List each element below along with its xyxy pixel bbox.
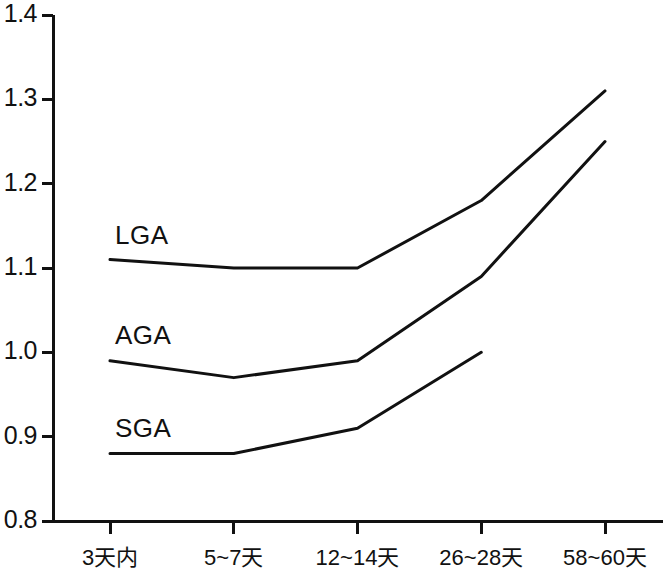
y-axis-tick-label: 1.2 (4, 168, 37, 197)
series-label-aga: AGA (115, 320, 171, 351)
series-line-aga (110, 142, 605, 378)
series-label-sga: SGA (115, 413, 171, 444)
y-axis-tick-label: 0.9 (4, 421, 37, 450)
x-axis-tick-label: 58~60天 (525, 539, 663, 571)
y-axis-tick-label: 1.1 (4, 252, 37, 281)
chart-series-lines (110, 91, 605, 454)
chart-axes (42, 15, 663, 534)
series-line-lga (110, 91, 605, 268)
y-axis-tick-label: 1.0 (4, 336, 37, 365)
series-label-lga: LGA (115, 220, 169, 251)
y-axis-tick-label: 0.8 (4, 505, 37, 534)
y-axis-tick-label: 1.4 (4, 0, 37, 28)
y-axis-tick-label: 1.3 (4, 83, 37, 112)
